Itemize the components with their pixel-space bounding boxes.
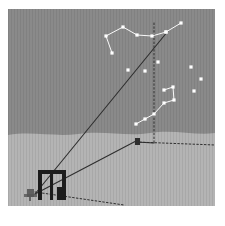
texture-stripe [83,9,84,206]
texture-stripe [32,9,33,206]
texture-stripe [98,9,99,206]
texture-stripe [155,9,156,206]
field-star [143,69,146,72]
door-block [57,187,63,200]
texture-stripe [20,9,21,206]
little-dipper-star [172,98,175,101]
texture-stripe [212,9,213,206]
texture-stripe [101,9,102,206]
texture-stripe [203,9,204,206]
texture-stripe [137,9,138,206]
field-star [199,77,202,80]
texture-stripe [104,9,105,206]
texture-stripe [86,9,87,206]
texture-stripe [53,9,54,206]
texture-stripe [11,9,12,206]
little-dipper-star [162,101,165,104]
texture-stripe [113,9,114,206]
texture-stripe [191,9,192,206]
texture-stripe [158,9,159,206]
texture-stripe [92,9,93,206]
texture-stripe [71,9,72,206]
little-dipper-star [134,122,137,125]
texture-stripe [176,9,177,206]
little-dipper-star [162,88,165,91]
big-dipper-star [104,34,107,37]
texture-stripe [167,9,168,206]
big-dipper-star [135,33,138,36]
texture-stripe [143,9,144,206]
texture-stripe [116,9,117,206]
texture-stripe [74,9,75,206]
observer-leg [29,197,31,201]
big-dipper-star [179,21,182,24]
texture-stripe [95,9,96,206]
texture-stripe [89,9,90,206]
texture-stripe [173,9,174,206]
texture-stripe [29,9,30,206]
field-star [189,65,192,68]
texture-stripe [185,9,186,206]
texture-stripe [125,9,126,206]
texture-stripe [197,9,198,206]
texture-stripe [209,9,210,206]
texture-stripe [140,9,141,206]
illustration-frame [0,0,225,226]
texture-stripe [128,9,129,206]
texture-stripe [134,9,135,206]
texture-stripe [131,9,132,206]
night-sky-scene [8,9,215,206]
texture-stripe [77,9,78,206]
little-dipper-star [143,117,146,120]
texture-stripe [23,9,24,206]
texture-stripe [206,9,207,206]
texture-stripe [152,9,153,206]
scene-svg [8,9,215,206]
texture-stripe [110,9,111,206]
texture-stripe [47,9,48,206]
texture-stripe [182,9,183,206]
texture-stripe [26,9,27,206]
texture-stripe [44,9,45,206]
texture-stripe [179,9,180,206]
big-dipper-star [110,51,113,54]
field-star [126,68,129,71]
doorway-lintel [38,170,66,174]
observer-base [24,194,37,197]
texture-stripe [59,9,60,206]
little-dipper-star [164,30,167,33]
big-dipper-star [150,34,153,37]
texture-stripe [146,9,147,206]
field-star [156,60,159,63]
texture-stripe [122,9,123,206]
texture-stripe [188,9,189,206]
texture-stripe [8,9,9,206]
texture-stripe [14,9,15,206]
little-dipper-star [171,85,174,88]
texture-stripe [164,9,165,206]
texture-stripe [56,9,57,206]
doorway-post-left [38,170,42,200]
horizon-marker [135,138,140,145]
field-star [192,89,195,92]
texture-stripe [149,9,150,206]
little-dipper-star [152,112,155,115]
big-dipper-star [121,25,124,28]
texture-stripe [35,9,36,206]
texture-stripe [200,9,201,206]
door-post-center [50,174,53,200]
texture-stripe [170,9,171,206]
texture-stripe [119,9,120,206]
texture-stripe [17,9,18,206]
texture-stripe [80,9,81,206]
texture-stripe [194,9,195,206]
